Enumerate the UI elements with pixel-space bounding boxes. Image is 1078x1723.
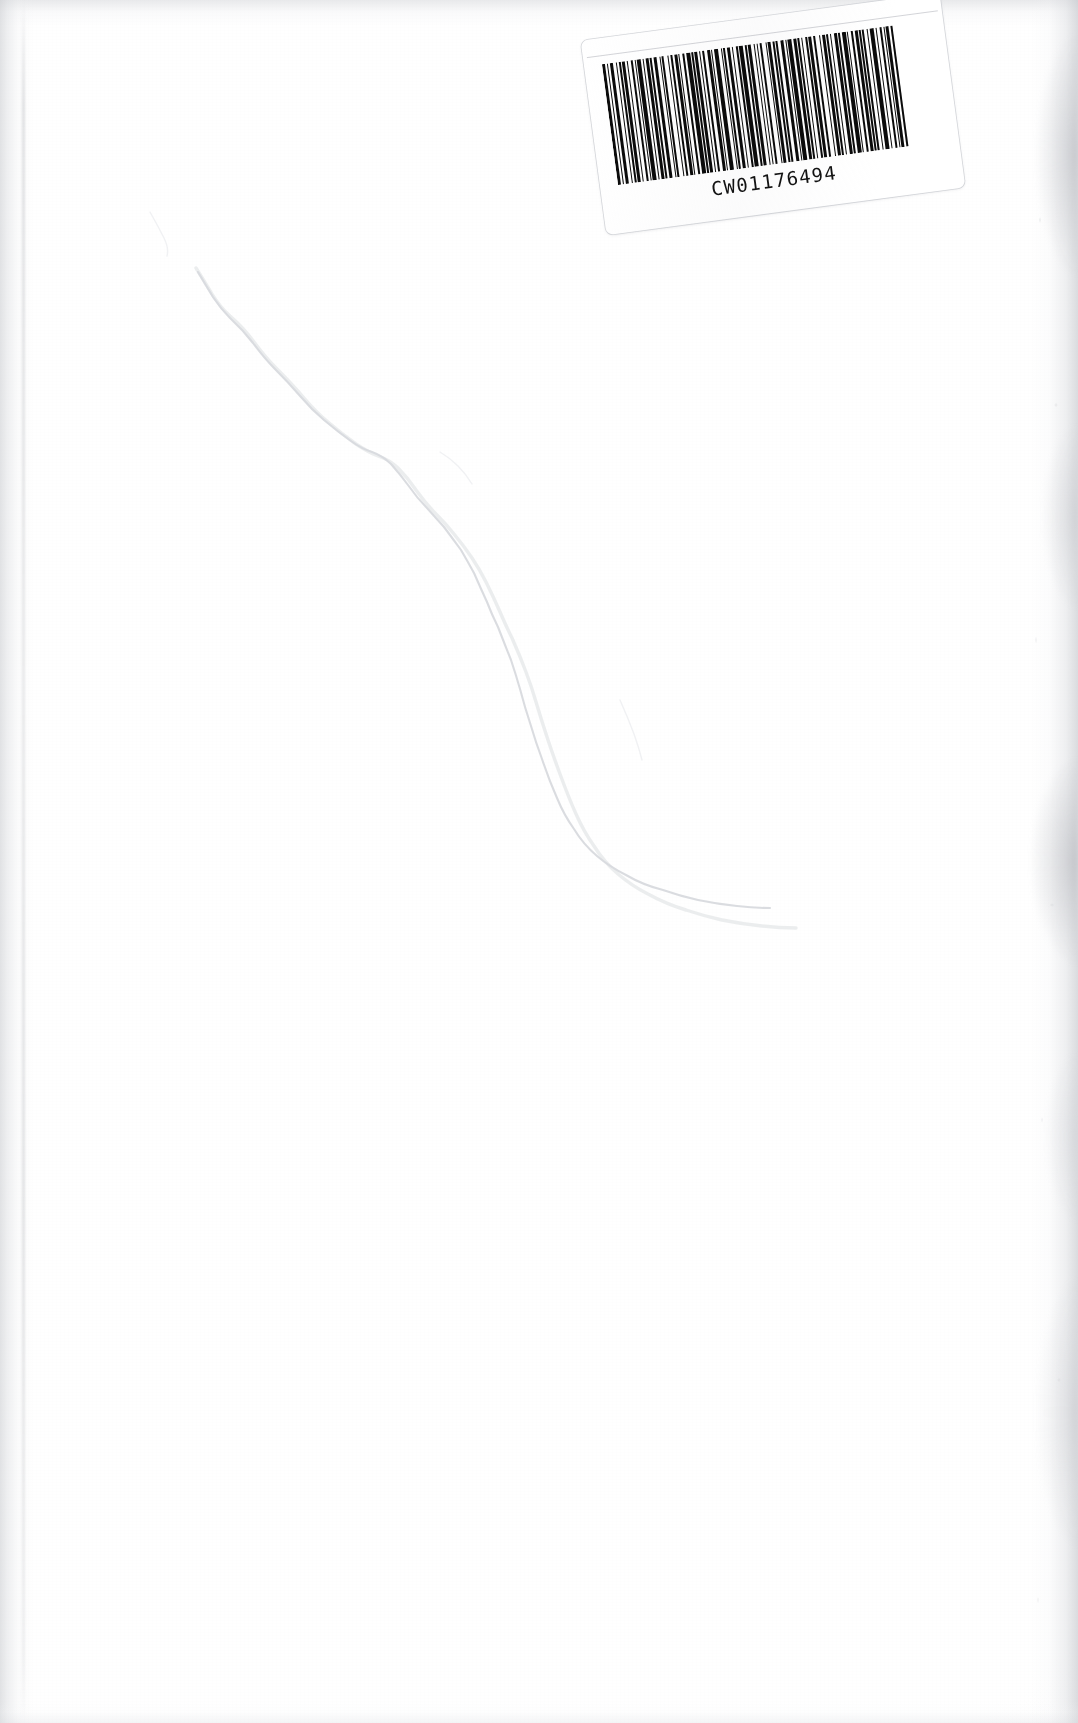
left-edge-shadow [0,0,34,1723]
right-margin-specks [1026,0,1072,1723]
paper-surface [0,0,1078,1723]
bottom-edge-shadow [0,1701,1078,1723]
left-edge-line [22,0,25,1723]
scanned-page: CW01176494 [0,0,1078,1723]
barcode-content: CW01176494 [602,21,951,225]
